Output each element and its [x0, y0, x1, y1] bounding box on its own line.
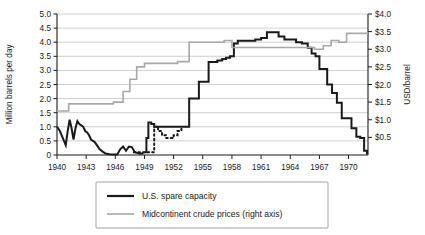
x-tick-label-1940: 1940	[48, 163, 67, 172]
y-tick-label-3.5: 3.5	[40, 52, 52, 61]
legend-border	[96, 182, 328, 228]
series-path-2	[134, 127, 182, 152]
chart-legend: U.S. spare capacity Midcontinent crude p…	[96, 182, 328, 228]
legend-label-crude-prices: Midcontinent crude prices (right axis)	[142, 209, 283, 219]
left-axis-ticks-group: 00.51.01.52.02.53.03.54.04.55.0	[40, 10, 57, 160]
x-tick-label-1958: 1958	[223, 163, 242, 172]
y2-tick-label-2: $2.0	[375, 81, 391, 90]
y-tick-label-0.5: 0.5	[40, 137, 52, 146]
y-tick-label-5: 5.0	[40, 10, 52, 19]
y-tick-label-2.5: 2.5	[40, 81, 52, 90]
y-tick-label-2: 2.0	[40, 95, 52, 104]
x-tick-label-1949: 1949	[135, 163, 154, 172]
y-tick-label-0: 0	[46, 151, 51, 160]
y-tick-label-1: 1.0	[40, 123, 52, 132]
x-tick-label-1970: 1970	[339, 163, 358, 172]
line-chart-canvas: 00.51.01.52.02.53.03.54.04.55.0 $0.5$1.0…	[0, 0, 425, 235]
y2-tick-label-1: $1.0	[375, 116, 391, 125]
legend-label-spare-capacity: U.S. spare capacity	[142, 191, 217, 201]
x-tick-label-1964: 1964	[281, 163, 300, 172]
series-path-0	[57, 120, 144, 155]
x-tick-label-1943: 1943	[77, 163, 96, 172]
y2-tick-label-3: $3.0	[375, 45, 391, 54]
chart-figure: 00.51.01.52.02.53.03.54.04.55.0 $0.5$1.0…	[0, 0, 425, 235]
y-tick-label-4.5: 4.5	[40, 24, 52, 33]
y-tick-label-3: 3.0	[40, 66, 52, 75]
y2-tick-label-0.5: $0.5	[375, 133, 391, 142]
x-tick-label-1967: 1967	[310, 163, 329, 172]
y2-tick-label-2.5: $2.5	[375, 63, 391, 72]
y-tick-label-1.5: 1.5	[40, 109, 52, 118]
x-tick-label-1952: 1952	[165, 163, 184, 172]
gridlines-group	[57, 14, 368, 141]
y2-tick-label-4: $4.0	[375, 10, 391, 19]
y2-tick-label-1.5: $1.5	[375, 98, 391, 107]
right-axis-ticks-group: $0.5$1.0$1.5$2.0$2.5$3.0$3.5$4.0	[368, 10, 391, 142]
y-axis-title: Million barrels per day	[5, 44, 14, 125]
y2-tick-label-3.5: $3.5	[375, 28, 391, 37]
x-tick-label-1946: 1946	[106, 163, 125, 172]
y-tick-label-4: 4.0	[40, 38, 52, 47]
x-axis-ticks-group: 1940194319461949195219551958196119641967…	[48, 155, 358, 172]
series-path-3	[57, 33, 368, 111]
x-tick-label-1955: 1955	[194, 163, 213, 172]
y2-axis-title: USD/barrel	[403, 64, 412, 105]
x-tick-label-1961: 1961	[252, 163, 271, 172]
data-series-group	[57, 32, 368, 154]
